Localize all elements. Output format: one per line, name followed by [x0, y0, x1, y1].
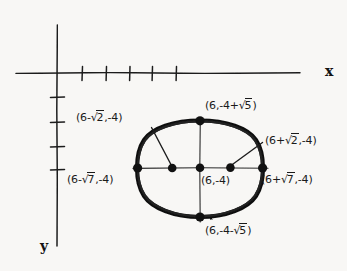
label-vertex-right-open: (6+ — [261, 173, 281, 186]
point-focus-right — [226, 163, 235, 172]
label-vertex-left-open: (6- — [67, 173, 82, 186]
label-focus-left-open: (6- — [76, 111, 91, 124]
radical-icon: √5 — [234, 225, 248, 236]
x-axis — [16, 73, 300, 74]
label-vertex-bottom-open: (6, — [205, 224, 219, 237]
label-vertex-top-open: (6, — [205, 99, 219, 112]
label-focus-left-close: ) — [118, 111, 122, 124]
label-vertex-right-body: ,-4 — [295, 173, 309, 186]
label-vertex-top-body: -4+ — [219, 99, 239, 112]
label-vertex-left-body: ,-4 — [95, 173, 109, 186]
radical-icon: √5 — [239, 100, 253, 111]
label-center-open: (6, — [201, 174, 215, 187]
label-focus-left: (6-√2,-4) — [76, 112, 122, 123]
point-vertex-bottom — [195, 212, 204, 221]
label-center: (6,-4) — [201, 175, 230, 186]
label-focus-left-body: ,-4 — [104, 111, 118, 124]
radical-icon: √2 — [285, 135, 299, 146]
radical-icon: √7 — [281, 174, 295, 185]
label-vertex-bottom-body: -4- — [219, 224, 233, 237]
label-focus-right-body: ,-4 — [299, 134, 313, 147]
label-vertex-right: (6+√7,-4) — [261, 174, 313, 185]
leader-line-focus-right — [231, 143, 263, 166]
label-focus-right-close: ) — [312, 134, 316, 147]
label-focus-right: (6+√2,-4) — [265, 135, 317, 146]
point-vertex-left — [133, 163, 142, 172]
point-center — [196, 164, 205, 173]
label-vertex-right-close: ) — [308, 173, 312, 186]
label-center-body: -4 — [215, 174, 226, 187]
leader-line-focus-left — [152, 128, 173, 167]
y-axis-label: y — [40, 239, 48, 253]
y-axis — [57, 25, 58, 246]
label-vertex-left: (6-√7,-4) — [67, 174, 113, 185]
label-vertex-right-radicand: 7 — [287, 172, 295, 186]
label-vertex-left-close: ) — [109, 173, 113, 186]
label-focus-right-open: (6+ — [265, 134, 285, 147]
radical-icon: √7 — [82, 174, 96, 185]
label-vertex-bottom: (6,-4-√5) — [205, 225, 251, 236]
label-center-close: ) — [226, 174, 230, 187]
label-vertex-bottom-close: ) — [247, 224, 251, 237]
point-focus-left — [168, 164, 177, 173]
sketch-figure: x y (6,-4+√5) (6,-4-√5) (6-√2,-4) (6+√2,… — [0, 0, 347, 271]
x-axis-label: x — [325, 64, 333, 78]
label-vertex-top: (6,-4+√5) — [205, 100, 257, 111]
point-vertex-right — [258, 163, 267, 172]
point-vertex-top — [195, 116, 204, 125]
radical-icon: √2 — [91, 112, 105, 123]
label-vertex-bottom-radicand: 5 — [239, 223, 247, 237]
label-vertex-top-close: ) — [252, 99, 256, 112]
label-focus-right-radicand: 2 — [291, 133, 299, 147]
